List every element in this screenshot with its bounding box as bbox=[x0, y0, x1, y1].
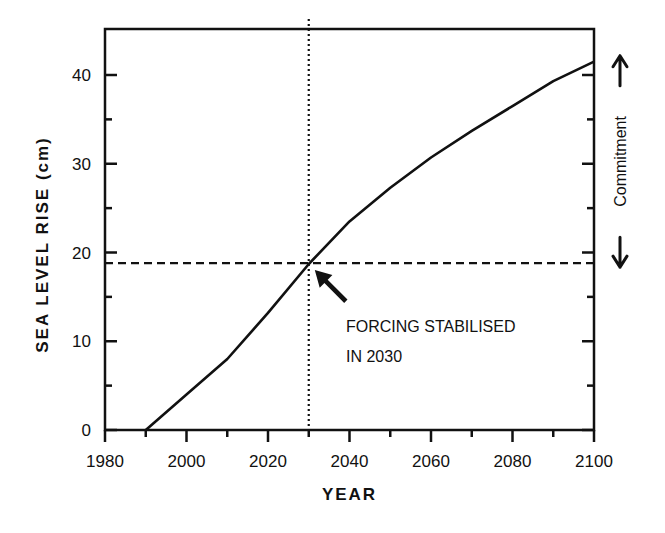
y-tick-label: 20 bbox=[72, 244, 91, 263]
x-tick-label: 2060 bbox=[412, 452, 450, 471]
forcing-annotation-line-2: IN 2030 bbox=[346, 348, 402, 365]
commitment-label: Commitment bbox=[612, 116, 629, 207]
arrow-down-icon bbox=[613, 237, 627, 267]
x-tick-label: 2080 bbox=[494, 452, 532, 471]
x-tick-label: 2020 bbox=[249, 452, 287, 471]
x-tick-label: 2100 bbox=[575, 452, 613, 471]
y-tick-label: 40 bbox=[72, 66, 91, 85]
x-tick-label: 2000 bbox=[168, 452, 206, 471]
sea-level-rise-chart: 1980200020202040206020802100010203040 YE… bbox=[0, 0, 665, 533]
y-tick-label: 10 bbox=[72, 332, 91, 351]
reference-lines bbox=[105, 19, 594, 428]
axis-ticks bbox=[105, 75, 594, 442]
arrow-up-icon bbox=[613, 56, 627, 86]
tick-labels: 1980200020202040206020802100010203040 bbox=[72, 66, 613, 471]
forcing-arrow-icon bbox=[315, 270, 348, 303]
series-line-sea-level-rise bbox=[146, 62, 594, 430]
y-tick-label: 0 bbox=[82, 421, 91, 440]
plot-frame bbox=[105, 29, 594, 430]
x-axis-title: YEAR bbox=[322, 485, 377, 504]
forcing-annotation: FORCING STABILISED IN 2030 bbox=[315, 270, 516, 365]
x-tick-label: 2040 bbox=[331, 452, 369, 471]
x-tick-label: 1980 bbox=[86, 452, 124, 471]
y-tick-label: 30 bbox=[72, 155, 91, 174]
forcing-annotation-line-1: FORCING STABILISED bbox=[346, 318, 516, 335]
commitment-annotation: Commitment bbox=[612, 56, 629, 267]
y-axis-title: SEA LEVEL RISE (cm) bbox=[33, 136, 52, 353]
